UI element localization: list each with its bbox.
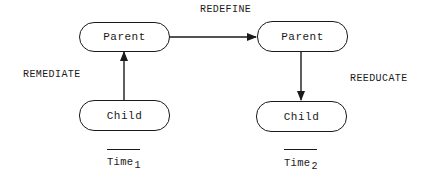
- time1-subscript: 1: [134, 160, 140, 171]
- reeducate-label: REEDUCATE: [350, 74, 408, 84]
- time2-label-text: Time: [284, 157, 310, 169]
- parent-node-time2: Parent: [257, 21, 348, 52]
- parent-node-time1-label: Parent: [103, 31, 146, 43]
- child-node-time2-label: Child: [284, 111, 320, 123]
- remediate-label: REMEDIATE: [23, 70, 81, 80]
- time1-label-text: Time: [107, 156, 133, 168]
- parent-node-time1: Parent: [79, 22, 170, 52]
- redefine-label: REDEFINE: [200, 5, 251, 15]
- time2-rule: [284, 149, 317, 150]
- diagram-canvas: Parent Child Parent Child REDEFINE REMED…: [0, 0, 427, 178]
- child-node-time1-label: Child: [107, 110, 143, 122]
- time1-label: Time1: [107, 157, 141, 168]
- child-node-time1: Child: [79, 100, 170, 131]
- time2-label: Time2: [284, 158, 318, 169]
- connectors-layer: [0, 0, 427, 178]
- child-node-time2: Child: [256, 101, 347, 132]
- parent-node-time2-label: Parent: [281, 31, 324, 43]
- time1-rule: [107, 149, 140, 150]
- time2-subscript: 2: [311, 161, 317, 172]
